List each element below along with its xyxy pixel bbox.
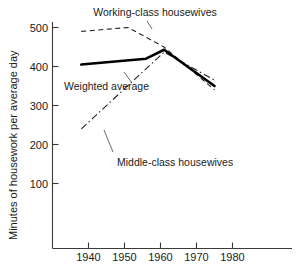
y-tick-label-300: 300	[30, 100, 48, 112]
x-tick-label-1950: 1950	[112, 251, 136, 263]
line-chart: Minutes of housework per average day 500…	[0, 0, 299, 270]
annotation-middle-class: Middle-class housewives	[117, 156, 233, 168]
y-tick-label-100: 100	[30, 178, 48, 190]
y-tick-label-500: 500	[30, 22, 48, 34]
y-tick-label-400: 400	[30, 61, 48, 73]
x-tick-label-1960: 1960	[148, 251, 172, 263]
annotation-weighted-average: Weighted average	[64, 80, 149, 92]
leader-line-working-class	[147, 21, 152, 29]
annotation-working-class: Working-class housewives	[93, 6, 217, 18]
y-axis-title: Minutes of housework per average day	[7, 50, 19, 240]
y-tick-label-200: 200	[30, 139, 48, 151]
y-axis-ticks	[53, 28, 59, 184]
x-tick-label-1970: 1970	[184, 251, 208, 263]
chart-container: Minutes of housework per average day 500…	[0, 0, 299, 270]
x-axis-ticks	[89, 243, 233, 249]
x-tick-label-1980: 1980	[220, 251, 244, 263]
x-tick-label-1940: 1940	[76, 251, 100, 263]
leader-line-middle-class	[104, 130, 113, 152]
